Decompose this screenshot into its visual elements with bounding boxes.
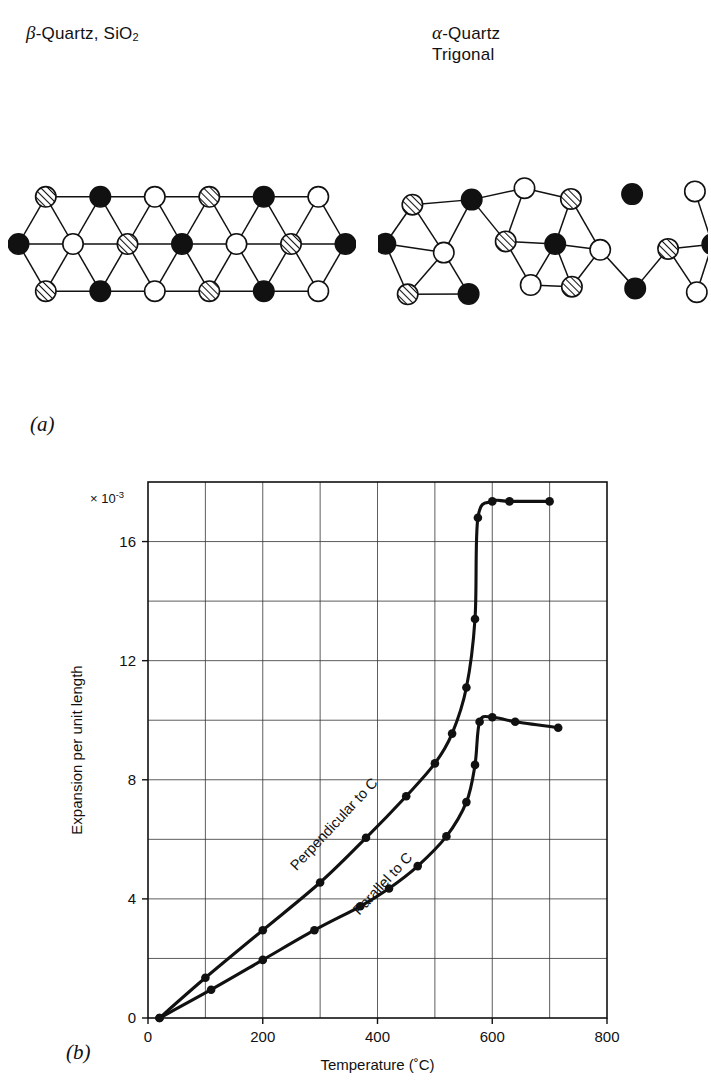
data-point <box>488 497 497 506</box>
atom-filled-icon <box>8 234 28 254</box>
atom-hatched-icon <box>117 234 137 254</box>
series-parallel-to-c <box>155 713 562 1022</box>
alpha-quartz-structure-diagram <box>378 78 708 408</box>
atom-open-icon <box>145 187 165 207</box>
atom-hatched-icon <box>496 231 516 251</box>
x-tick-label: 800 <box>594 1028 619 1045</box>
series-line <box>160 716 559 1018</box>
atom-filled-icon <box>625 278 645 298</box>
atom-open-icon <box>63 234 83 254</box>
atom-open-icon <box>434 242 454 262</box>
beta-symbol: β <box>26 22 36 43</box>
atom-open-icon <box>685 181 705 201</box>
data-point <box>259 926 268 935</box>
atom-hatched-icon <box>561 189 581 209</box>
data-point <box>442 832 451 841</box>
atom-filled-icon <box>458 284 478 304</box>
data-point <box>413 862 422 871</box>
panel-a-label: (a) <box>30 412 55 437</box>
x-tick-label: 0 <box>144 1028 152 1045</box>
right-structure-subtitle: Trigonal <box>432 45 494 65</box>
x-tick-label: 600 <box>480 1028 505 1045</box>
data-point <box>310 926 319 935</box>
x-tick-label: 400 <box>365 1028 390 1045</box>
data-point <box>316 878 325 887</box>
atom-filled-icon <box>254 187 274 207</box>
data-point <box>448 729 457 738</box>
data-point <box>554 723 563 732</box>
data-point <box>201 974 210 983</box>
atom-hatched-icon <box>562 277 582 297</box>
y-tick-label: 8 <box>128 771 136 788</box>
atom-hatched-icon <box>398 284 418 304</box>
atom-open-icon <box>514 178 534 198</box>
atom-filled-icon <box>254 281 274 301</box>
data-point <box>431 759 440 768</box>
atom-filled-icon <box>545 234 565 254</box>
data-point <box>475 717 484 726</box>
data-point <box>259 956 268 965</box>
thermal-expansion-chart: 0200400600800 0481216 × 10-3 Temperature… <box>0 460 711 1085</box>
atom-hatched-icon <box>199 281 219 301</box>
atom-hatched-icon <box>199 187 219 207</box>
x-tick-label: 200 <box>250 1028 275 1045</box>
atom-filled-icon <box>462 189 482 209</box>
alpha-symbol: α <box>432 22 442 43</box>
atom-open-icon <box>226 234 246 254</box>
atom-hatched-icon <box>36 281 56 301</box>
y-tick-label: 0 <box>128 1009 136 1026</box>
y-tick-label: 4 <box>128 890 136 907</box>
atom-open-icon <box>687 282 707 302</box>
atom-filled-icon <box>335 234 355 254</box>
atom-filled-icon <box>378 234 396 254</box>
data-point <box>511 717 520 726</box>
atom-open-icon <box>145 281 165 301</box>
data-point <box>471 615 480 624</box>
atom-open-icon <box>590 240 610 260</box>
left-structure-title: β-Quartz, SiO2 <box>26 22 139 44</box>
data-point <box>207 985 216 994</box>
atom-hatched-icon <box>658 239 678 259</box>
atom-hatched-icon <box>402 195 422 215</box>
atom-open-icon <box>308 187 328 207</box>
data-point <box>462 683 471 692</box>
y-tick-label: 16 <box>119 533 136 550</box>
x-axis-tick-labels: 0200400600800 <box>144 1028 620 1045</box>
data-point <box>362 834 371 843</box>
right-title-text: -Quartz <box>442 24 500 43</box>
y-tick-label: 12 <box>119 652 136 669</box>
y-axis-exponent-label: × 10-3 <box>90 489 124 506</box>
data-point <box>474 513 483 522</box>
series-perpendicular-to-c <box>155 497 554 1022</box>
atom-filled-icon <box>622 184 642 204</box>
atom-open-icon <box>521 275 541 295</box>
atom-filled-icon <box>90 281 110 301</box>
series-line <box>160 500 550 1018</box>
atom-filled-icon <box>172 234 192 254</box>
atom-filled-icon <box>702 234 708 254</box>
beta-quartz-structure-diagram <box>8 78 356 408</box>
data-series-layer <box>155 497 562 1022</box>
data-point <box>471 761 480 770</box>
data-point <box>545 497 554 506</box>
atom-open-icon <box>308 281 328 301</box>
atom-filled-icon <box>90 187 110 207</box>
curve-label: Perpendicular to C <box>287 775 381 874</box>
left-title-subscript: 2 <box>133 31 139 43</box>
y-axis-label: Expansion per unit length <box>68 665 85 834</box>
data-point <box>155 1014 164 1023</box>
x-axis-label: Temperature (˚C) <box>320 1056 434 1073</box>
atom-hatched-icon <box>36 187 56 207</box>
data-point <box>488 713 497 722</box>
right-structure-title: α-Quartz <box>432 22 500 44</box>
data-point <box>462 798 471 807</box>
left-title-text: -Quartz, SiO <box>36 24 133 43</box>
y-axis-tick-labels: 0481216 <box>119 533 136 1026</box>
atom-hatched-icon <box>281 234 301 254</box>
curve-label: Parallel to C <box>350 849 416 918</box>
data-point <box>402 792 411 801</box>
data-point <box>505 497 514 506</box>
